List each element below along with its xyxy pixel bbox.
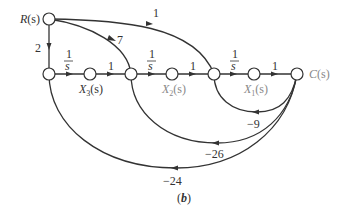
node-r[interactable] xyxy=(43,13,55,25)
arrow-r-to-n1 xyxy=(47,43,52,50)
arrow-c-to-n3 xyxy=(212,141,219,146)
gain-r-to-n5: 1 xyxy=(153,6,159,20)
label-c: C(s) xyxy=(309,67,330,81)
svg-text:s: s xyxy=(231,59,236,73)
arrow-c-to-n5 xyxy=(252,110,259,115)
gain-r-to-n1: 2 xyxy=(35,41,41,55)
label-x2: X2(s) xyxy=(161,82,186,98)
node-x2[interactable] xyxy=(166,68,178,80)
node-x3[interactable] xyxy=(84,68,96,80)
node-c[interactable] xyxy=(291,68,303,80)
node-n5[interactable] xyxy=(208,68,220,80)
gain-r-to-n3: 7 xyxy=(117,33,123,47)
gain-n1-to-x3: 1 s xyxy=(64,47,73,73)
gain-n3-to-x2: 1 s xyxy=(147,47,156,73)
arrow-r-to-n5 xyxy=(146,21,153,26)
gain-n5-to-x1: 1 s xyxy=(230,47,239,73)
node-n3[interactable] xyxy=(125,68,137,80)
gain-c-to-n3: −26 xyxy=(205,147,224,161)
figure-caption: (b) xyxy=(177,191,191,205)
label-x3: X3(s) xyxy=(78,82,103,98)
node-x1[interactable] xyxy=(248,68,260,80)
gain-x1-to-c: 1 xyxy=(272,59,278,73)
label-r: R(s) xyxy=(19,12,40,26)
branch-c-to-n3 xyxy=(131,74,297,143)
arrow-c-to-n1 xyxy=(171,166,178,171)
gain-c-to-n5: −9 xyxy=(247,117,260,131)
gain-x3-to-n3: 1 xyxy=(108,59,114,73)
node-n1[interactable] xyxy=(43,68,55,80)
label-x1: X1(s) xyxy=(243,82,268,98)
svg-text:s: s xyxy=(65,59,70,73)
gain-c-to-n1: −24 xyxy=(163,174,182,188)
gain-x2-to-n5: 1 xyxy=(190,59,196,73)
svg-text:s: s xyxy=(148,59,153,73)
arrow-r-to-n3 xyxy=(107,35,116,41)
signal-flow-graph: R(s) C(s) X3(s) X2(s) X1(s) 2 7 1 1 s 1 … xyxy=(0,0,347,214)
